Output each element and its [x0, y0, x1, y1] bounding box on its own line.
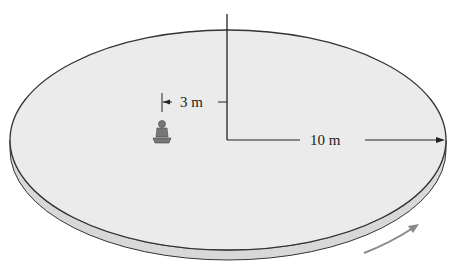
diagram-canvas	[0, 0, 449, 276]
rotation-arrowhead-icon	[408, 224, 419, 233]
label-10m: 10 m	[308, 132, 342, 148]
label-3m: 3 m	[178, 94, 205, 110]
